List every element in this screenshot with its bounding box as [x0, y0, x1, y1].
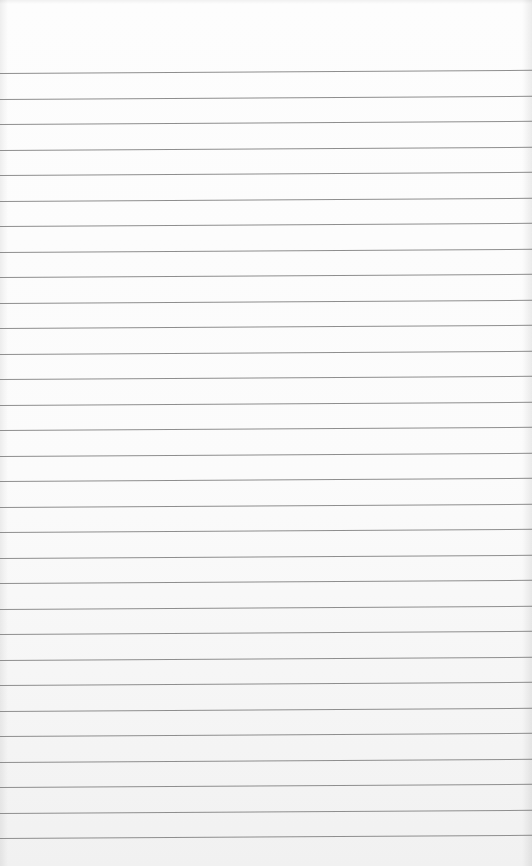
ruled-line: [0, 325, 532, 329]
ruled-line: [0, 95, 532, 99]
paper-top-edge-shadow: [0, 0, 532, 4]
ruled-line: [0, 835, 532, 839]
ruled-line: [0, 121, 532, 125]
ruled-line: [0, 605, 532, 609]
ruled-line: [0, 172, 532, 176]
ruled-line: [0, 401, 532, 405]
ruled-line: [0, 478, 532, 482]
ruled-line: [0, 529, 532, 533]
ruled-line: [0, 376, 532, 380]
ruled-line: [0, 70, 532, 74]
ruled-line: [0, 707, 532, 711]
ruled-line: [0, 350, 532, 354]
ruled-line: [0, 733, 532, 737]
ruled-line: [0, 427, 532, 431]
ruled-line: [0, 758, 532, 762]
ruled-line: [0, 146, 532, 150]
lined-paper: [0, 0, 532, 866]
ruled-line: [0, 197, 532, 201]
ruled-line: [0, 682, 532, 686]
ruled-line: [0, 784, 532, 788]
ruled-line: [0, 503, 532, 507]
ruled-line: [0, 656, 532, 660]
ruled-line: [0, 580, 532, 584]
ruled-line: [0, 299, 532, 303]
ruled-line: [0, 631, 532, 635]
ruled-line: [0, 274, 532, 278]
ruled-line: [0, 223, 532, 227]
ruled-line: [0, 452, 532, 456]
ruled-line: [0, 248, 532, 252]
ruled-line: [0, 809, 532, 813]
ruled-line: [0, 554, 532, 558]
